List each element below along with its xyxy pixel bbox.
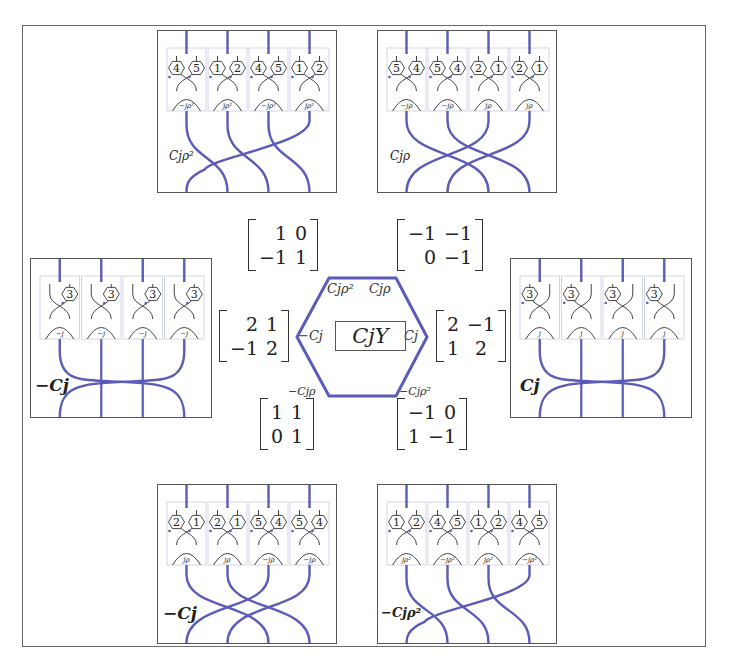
- svg-text:jρ²: jρ²: [482, 556, 493, 564]
- svg-text:1: 1: [393, 516, 400, 529]
- svg-text:jρ: jρ: [181, 556, 190, 564]
- svg-text:1: 1: [234, 516, 241, 529]
- svg-text:2: 2: [316, 62, 323, 75]
- svg-text:4: 4: [516, 516, 523, 529]
- svg-text:2: 2: [234, 62, 241, 75]
- braid-diagram: 3j3j3j3j: [511, 259, 693, 419]
- svg-text:1: 1: [475, 516, 482, 529]
- svg-text:j: j: [537, 330, 542, 338]
- svg-text:−j: −j: [139, 330, 148, 338]
- panel-label-bottom-right: −Cjρ²: [381, 605, 421, 620]
- svg-text:3: 3: [568, 288, 575, 301]
- hex-label-left: −Cj: [298, 328, 323, 343]
- panel-label-right: Cj: [520, 375, 540, 395]
- svg-text:3: 3: [149, 288, 156, 301]
- panel-label-bottom-left: −Cj: [163, 603, 197, 623]
- svg-text:2: 2: [495, 516, 502, 529]
- svg-text:1: 1: [193, 516, 200, 529]
- panel-label-left: −Cj: [35, 375, 69, 395]
- svg-text:2: 2: [516, 62, 523, 75]
- svg-text:5: 5: [275, 62, 282, 75]
- svg-text:5: 5: [434, 62, 441, 75]
- svg-text:3: 3: [609, 288, 616, 301]
- hex-label-top-left: Cjρ²: [327, 281, 354, 296]
- svg-text:−jρ: −jρ: [262, 556, 275, 564]
- svg-text:j: j: [661, 330, 666, 338]
- svg-text:−j: −j: [180, 330, 189, 338]
- panel-bottom-right: 12jρ²45−jρ²12jρ²45−jρ²: [377, 484, 557, 644]
- svg-text:4: 4: [454, 62, 461, 75]
- matrix-lower-right: −10 1−1: [397, 398, 467, 450]
- svg-text:4: 4: [275, 516, 282, 529]
- panel-label-top-left: Cjρ²: [169, 149, 194, 163]
- braid-diagram: 45−jρ²12jρ²45−jρ²12jρ²: [158, 31, 338, 194]
- matrix-lower-left: 11 01: [260, 398, 314, 450]
- svg-text:3: 3: [108, 288, 115, 301]
- svg-text:2: 2: [173, 516, 180, 529]
- matrix-right: 2−1 12: [436, 310, 506, 362]
- svg-text:−jρ: −jρ: [441, 102, 454, 110]
- svg-text:j: j: [620, 330, 625, 338]
- svg-text:−jρ²: −jρ²: [440, 556, 455, 564]
- hex-label-bottom-left: −Cjρ: [288, 385, 316, 398]
- hex-label-top-right: Cjρ: [369, 281, 391, 296]
- svg-text:1: 1: [214, 62, 221, 75]
- svg-text:5: 5: [454, 516, 461, 529]
- braid-diagram: 54−jρ54−jρ21jρ21jρ: [378, 31, 558, 194]
- center-label-box: CjY: [335, 321, 406, 351]
- svg-text:4: 4: [316, 516, 323, 529]
- panel-top-right: 54−jρ54−jρ21jρ21jρ: [377, 30, 557, 193]
- braid-diagram: 3−j3−j3−j3−j: [31, 259, 213, 419]
- svg-text:−jρ²: −jρ²: [522, 556, 537, 564]
- svg-text:3: 3: [66, 288, 73, 301]
- svg-text:1: 1: [296, 62, 303, 75]
- svg-text:−jρ²: −jρ²: [261, 102, 276, 110]
- svg-text:3: 3: [651, 288, 658, 301]
- svg-text:4: 4: [413, 62, 420, 75]
- braid-diagram: 12jρ²45−jρ²12jρ²45−jρ²: [378, 485, 558, 645]
- svg-text:jρ: jρ: [524, 102, 533, 110]
- panel-label-top-right: Cjρ: [390, 149, 410, 163]
- svg-text:3: 3: [191, 288, 198, 301]
- panel-top-left: 45−jρ²12jρ²45−jρ²12jρ²: [157, 30, 337, 193]
- svg-text:5: 5: [255, 516, 262, 529]
- svg-text:4: 4: [255, 62, 262, 75]
- svg-text:2: 2: [413, 516, 420, 529]
- matrix-upper-right: −1−1 0−1: [397, 219, 483, 271]
- svg-text:3: 3: [526, 288, 533, 301]
- svg-text:jρ²: jρ²: [221, 102, 232, 110]
- svg-text:−j: −j: [97, 330, 106, 338]
- svg-text:4: 4: [173, 62, 180, 75]
- svg-text:−jρ: −jρ: [303, 556, 316, 564]
- matrix-left: 21 −12: [219, 310, 289, 362]
- svg-text:jρ²: jρ²: [400, 556, 411, 564]
- svg-text:5: 5: [393, 62, 400, 75]
- svg-text:j: j: [578, 330, 583, 338]
- svg-text:jρ: jρ: [483, 102, 492, 110]
- hex-label-right: Cj: [404, 328, 418, 343]
- svg-text:2: 2: [214, 516, 221, 529]
- svg-text:1: 1: [495, 62, 502, 75]
- svg-text:jρ²: jρ²: [303, 102, 314, 110]
- svg-text:−jρ: −jρ: [400, 102, 413, 110]
- svg-text:−jρ²: −jρ²: [179, 102, 194, 110]
- svg-text:1: 1: [536, 62, 543, 75]
- svg-text:5: 5: [296, 516, 303, 529]
- svg-text:−j: −j: [56, 330, 65, 338]
- svg-text:jρ: jρ: [222, 556, 231, 564]
- svg-text:4: 4: [434, 516, 441, 529]
- svg-text:2: 2: [475, 62, 482, 75]
- svg-text:5: 5: [536, 516, 543, 529]
- matrix-upper-left: 10 −11: [248, 219, 318, 271]
- svg-text:5: 5: [193, 62, 200, 75]
- hex-label-bottom-right: −Cjρ²: [399, 385, 431, 398]
